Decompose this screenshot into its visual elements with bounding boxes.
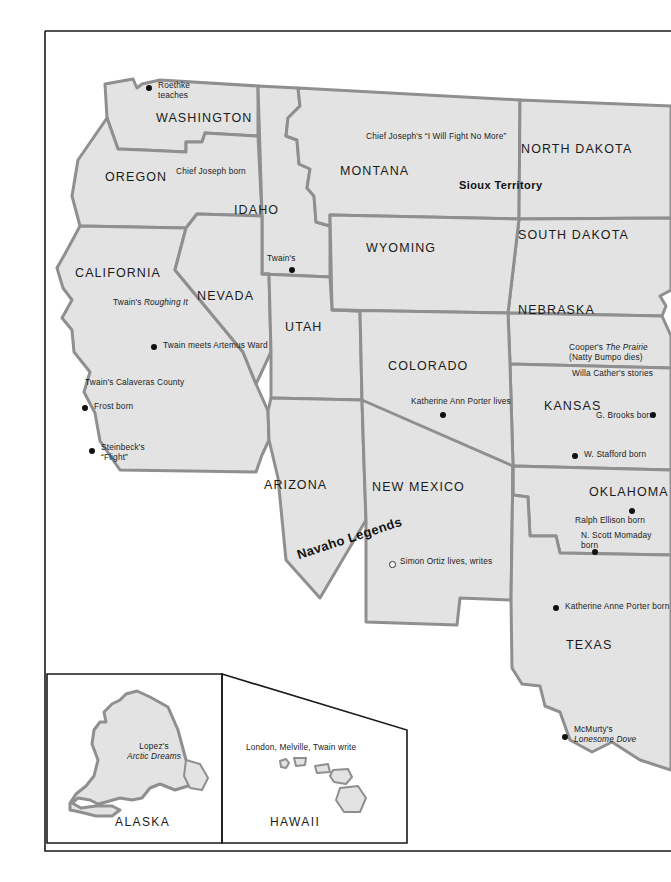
hawaii-island-maui	[330, 769, 352, 784]
hawaii-island-kauai	[280, 759, 289, 768]
state-label-texas: TEXAS	[566, 638, 613, 652]
annotation-simon-ortiz: Simon Ortiz lives, writes	[400, 557, 492, 567]
marker-simon-ortiz	[389, 561, 396, 568]
annotation-twains-roughing-it-title: Roughing It	[144, 297, 188, 307]
state-label-north-dakota: NORTH DAKOTA	[521, 142, 632, 156]
state-north-dakota-shape	[519, 100, 671, 219]
marker-katherine-anne-porter-born	[553, 605, 559, 611]
state-label-colorado: COLORADO	[388, 359, 468, 373]
state-label-oklahoma: OKLAHOMA	[589, 485, 669, 499]
state-label-washington: WASHINGTON	[156, 111, 252, 125]
hawaii-islands-group	[280, 758, 366, 812]
state-montana-shape	[286, 88, 520, 226]
annotation-roethke: Roethke teaches	[158, 81, 190, 100]
annotation-coopers-prefix: Cooper's	[569, 342, 606, 352]
state-label-idaho: IDAHO	[234, 203, 279, 217]
marker-twain-artemus-ward	[151, 344, 157, 350]
annotation-roethke-line2: teaches	[158, 90, 188, 100]
state-arizona-shape	[268, 398, 366, 598]
marker-steinbecks-flight	[89, 448, 95, 454]
hawaii-island-molokai	[315, 764, 330, 773]
marker-roethke	[146, 85, 152, 91]
state-label-utah: UTAH	[285, 320, 323, 334]
annotation-hawaii-writers: London, Melville, Twain write	[246, 743, 356, 753]
state-label-nevada: NEVADA	[197, 289, 254, 303]
state-label-south-dakota: SOUTH DAKOTA	[518, 228, 629, 242]
annotation-n-scott-momaday-line2: born	[581, 540, 598, 550]
annotation-coopers-the-prairie: Cooper's The Prairie (Natty Bumpo dies)	[569, 343, 648, 362]
annotation-w-stafford-born: W. Stafford born	[584, 450, 646, 460]
state-label-new-mexico: NEW MEXICO	[372, 480, 465, 494]
annotation-chief-joseph-quote: Chief Joseph's “I Will Fight No More”	[366, 132, 506, 142]
state-label-oregon: OREGON	[105, 170, 167, 184]
hawaii-island-big-island	[336, 786, 366, 812]
annotation-n-scott-momaday-line1: N. Scott Momaday	[581, 530, 652, 540]
annotation-mcmurtrys-title: Lonesome Dove	[574, 734, 636, 744]
annotation-twains-roughing-it: Twain's Roughing It	[113, 298, 188, 308]
annotation-mcmurtrys-line1: McMurty's	[574, 724, 613, 734]
state-label-california: CALIFORNIA	[75, 266, 161, 280]
annotation-chief-joseph-born: Chief Joseph born	[176, 167, 246, 177]
annotation-willa-cather: Willa Cather's stories	[572, 369, 653, 379]
map-page: WASHINGTON OREGON IDAHO MONTANA NORTH DA…	[0, 0, 671, 882]
annotation-steinbecks-flight: Steinbeck's “Flight”	[101, 443, 145, 462]
state-label-nebraska: NEBRASKA	[518, 303, 595, 317]
inset-label-hawaii: HAWAII	[270, 816, 320, 830]
annotation-n-scott-momaday: N. Scott Momaday born	[581, 531, 652, 550]
annotation-frost-born: Frost born	[94, 402, 133, 412]
inset-label-alaska: ALASKA	[115, 816, 170, 830]
annotation-lopez-arctic-dreams: Lopez's Arctic Dreams	[127, 742, 181, 761]
marker-ezra-pound	[289, 267, 295, 273]
marker-n-scott-momaday	[592, 549, 598, 555]
annotation-steinbecks-flight-line1: Steinbeck's	[101, 442, 145, 452]
annotation-ezra-pound: Twain's	[267, 254, 295, 264]
marker-frost-born	[82, 405, 88, 411]
state-label-montana: MONTANA	[340, 164, 409, 178]
annotation-katherine-anne-porter-born: Katherine Anne Porter born	[565, 602, 669, 612]
annotation-twains-roughing-it-prefix: Twain's	[113, 297, 144, 307]
marker-w-stafford-born	[572, 453, 578, 459]
annotation-ralph-ellison-born: Ralph Ellison born	[575, 516, 645, 526]
annotation-steinbecks-flight-line2: “Flight”	[101, 452, 128, 462]
state-wyoming-shape	[330, 215, 519, 313]
annotation-coopers-line2: (Natty Bumpo dies)	[569, 352, 643, 362]
state-label-arizona: ARIZONA	[264, 478, 327, 492]
territory-label-sioux: Sioux Territory	[459, 179, 542, 192]
marker-ralph-ellison-born	[629, 508, 635, 514]
annotation-twains-calaveras: Twain's Calaveras County	[85, 378, 184, 388]
annotation-roethke-line1: Roethke	[158, 80, 190, 90]
annotation-lopez-line1: Lopez's	[139, 741, 168, 751]
state-label-kansas: KANSAS	[544, 399, 601, 413]
annotation-lopez-title: Arctic Dreams	[127, 751, 181, 761]
state-label-wyoming: WYOMING	[366, 241, 436, 255]
marker-mcmurtrys-lonesome-dove	[562, 734, 568, 740]
annotation-coopers-title: The Prairie	[606, 342, 648, 352]
marker-g-brooks-born	[650, 412, 656, 418]
marker-katherine-ann-porter-lives	[440, 412, 446, 418]
annotation-katherine-ann-porter-lives: Katherine Ann Porter lives	[411, 397, 511, 407]
annotation-g-brooks-born: G. Brooks born	[596, 411, 654, 421]
annotation-mcmurtrys-lonesome-dove: McMurty's Lonesome Dove	[574, 725, 636, 744]
annotation-twain-artemus-ward: Twain meets Artemus Ward	[163, 341, 268, 351]
hawaii-island-oahu	[294, 758, 306, 766]
